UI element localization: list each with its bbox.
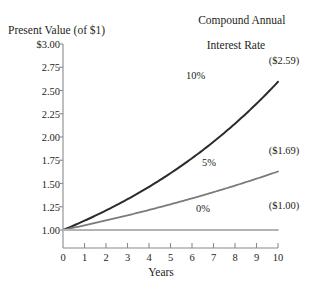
series-line-5pct — [63, 172, 278, 230]
plot-canvas — [0, 0, 322, 293]
present-value-chart: Compound Annual Interest Rate Present Va… — [0, 0, 322, 293]
series-line-10pct — [63, 82, 278, 230]
